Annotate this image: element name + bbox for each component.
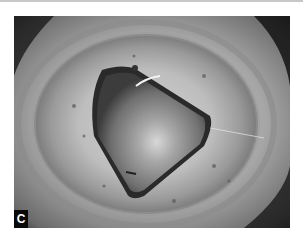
- top-border: [0, 0, 303, 2]
- eye-photograph: [14, 16, 290, 228]
- panel-label: C: [14, 210, 28, 228]
